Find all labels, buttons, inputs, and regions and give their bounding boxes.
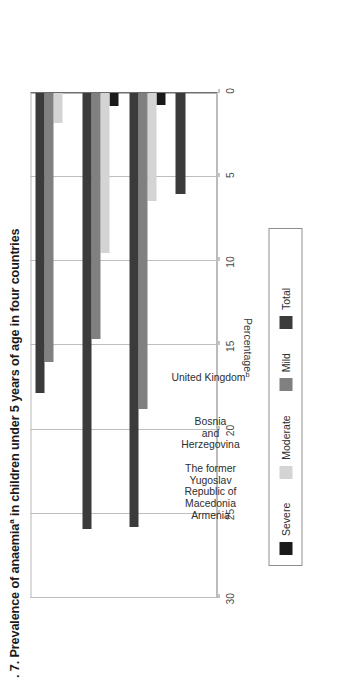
gridline-5: [30, 176, 217, 177]
legend-swatch-moderate-icon: [279, 466, 292, 479]
bar-moderate-2: [147, 93, 156, 201]
value-axis-tick-30: 30: [225, 593, 235, 627]
category-label-0: Armenia: [151, 510, 269, 522]
gridline-10: [30, 260, 217, 261]
figure-title: . 7. Prevalence of anaemiaa in children …: [4, 0, 21, 678]
bar-total-3: [175, 93, 184, 194]
value-axis-tick-10: 10: [225, 256, 235, 290]
plot-area: [30, 93, 217, 598]
gridline-15: [30, 345, 217, 346]
tick-mark-30: [218, 594, 219, 598]
bar-mild-0: [44, 93, 53, 362]
legend-item-mild[interactable]: Mild: [279, 353, 292, 391]
legend-item-severe[interactable]: Severe: [279, 503, 292, 555]
legend-swatch-mild-icon: [279, 378, 292, 391]
bar-mild-2: [138, 93, 147, 409]
category-label-3: United Kingdomb: [151, 369, 269, 384]
bar-total-1: [82, 93, 91, 529]
legend-label-moderate: Moderate: [279, 415, 291, 459]
legend-label-mild: Mild: [279, 353, 291, 372]
plot-frame-border: [30, 93, 217, 598]
legend-swatch-severe-icon: [279, 542, 292, 555]
legend-swatch-total-icon: [279, 316, 292, 329]
tick-mark-15: [218, 342, 219, 346]
bar-moderate-1: [100, 93, 109, 253]
category-superscript-3: b: [245, 370, 249, 379]
legend-item-total[interactable]: Total: [279, 288, 292, 329]
bar-moderate-0: [53, 93, 62, 123]
tick-mark-10: [218, 257, 219, 261]
bar-total-0: [35, 93, 44, 393]
legend-label-severe: Severe: [279, 503, 291, 536]
figure-title-suffix: in children under 5 years of age in four…: [7, 229, 21, 520]
bar-severe-1: [109, 93, 118, 106]
legend-item-moderate[interactable]: Moderate: [279, 415, 292, 478]
category-label-2: BosniaandHerzegovina: [151, 416, 269, 451]
bar-mild-1: [91, 93, 100, 339]
figure-title-superscript: a: [6, 519, 15, 523]
category-label-1: The formerYugoslavRepublic ofMacedonia: [151, 463, 269, 509]
value-axis-tick-5: 5: [225, 172, 235, 206]
bar-total-2: [129, 93, 138, 527]
gridline-30: [30, 597, 217, 598]
figure-title-prefix: . 7. Prevalence of anaemia: [7, 524, 21, 678]
tick-mark-0: [218, 89, 219, 93]
tick-mark-5: [218, 173, 219, 177]
value-axis-tick-0: 0: [225, 88, 235, 122]
bar-severe-2: [156, 93, 165, 105]
chart-legend: SevereModerateMildTotal: [268, 228, 302, 566]
legend-label-total: Total: [279, 288, 291, 310]
